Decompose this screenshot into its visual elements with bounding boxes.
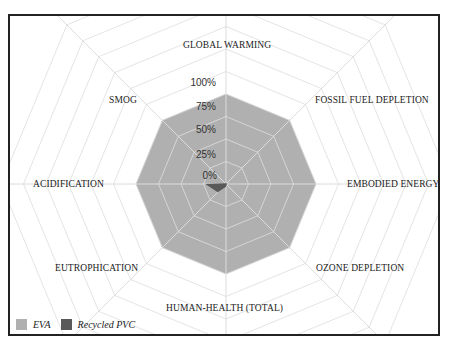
- axis-label-ozone: OZONE DEPLETION: [316, 263, 404, 273]
- axis-label-acidification: ACIDIFICATION: [33, 179, 104, 189]
- legend-label-eva: EVA: [33, 319, 51, 330]
- tick-75: 75%: [176, 101, 216, 112]
- legend-item-pvc: Recycled PVC: [61, 319, 135, 330]
- tick-0: 0%: [177, 170, 217, 181]
- legend-swatch-pvc: [61, 319, 72, 330]
- axis-label-eutrophication: EUTROPHICATION: [55, 263, 138, 273]
- legend: EVA Recycled PVC: [16, 319, 145, 330]
- axis-label-human-health: HUMAN-HEALTH (TOTAL): [166, 303, 283, 313]
- legend-item-eva: EVA: [16, 319, 51, 330]
- tick-100: 100%: [176, 77, 216, 88]
- axis-label-embodied-energy: EMBODIED ENERGY: [347, 179, 440, 189]
- legend-label-pvc: Recycled PVC: [78, 319, 135, 330]
- legend-swatch-eva: [16, 319, 27, 330]
- tick-25: 25%: [176, 149, 216, 160]
- tick-50: 50%: [176, 124, 216, 135]
- chart-frame: GLOBAL WARMING FOSSIL FUEL DEPLETION EMB…: [8, 14, 440, 336]
- axis-label-smog: SMOG: [109, 95, 137, 105]
- radar-chart: [10, 16, 438, 334]
- axis-label-fossil-fuel: FOSSIL FUEL DEPLETION: [315, 95, 429, 105]
- axis-label-global-warming: GLOBAL WARMING: [183, 40, 271, 50]
